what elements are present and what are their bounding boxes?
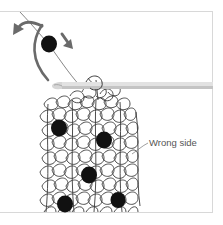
crochet-hook xyxy=(52,82,213,89)
bead xyxy=(57,196,73,213)
bead-top xyxy=(41,36,57,53)
fabric-beads xyxy=(51,120,126,213)
bead xyxy=(81,167,97,184)
crochet-fabric xyxy=(40,78,140,212)
wrong-side-label: Wrong side xyxy=(149,137,197,148)
arrow-down-right-icon xyxy=(62,34,73,49)
bead xyxy=(111,192,126,208)
crochet-bead-illustration xyxy=(0,0,223,225)
curved-arc-icon xyxy=(34,25,48,80)
label-leader-line xyxy=(132,143,148,154)
bead xyxy=(51,120,67,137)
bead xyxy=(96,132,112,149)
